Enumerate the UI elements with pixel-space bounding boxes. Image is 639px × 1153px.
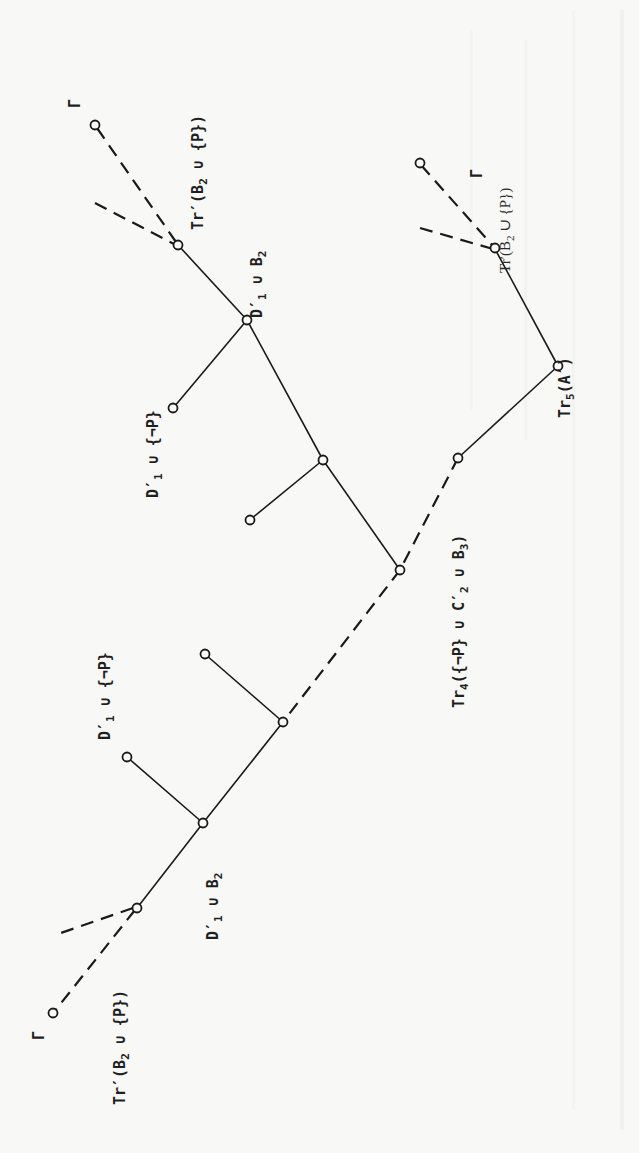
label-top-tr: Tr′(B2 ∪ {P}) <box>189 115 210 230</box>
node <box>279 718 288 727</box>
node-gamma-bottom <box>49 1009 58 1018</box>
upper-branch <box>95 128 400 570</box>
label-bottom-tr: Tr′(B2 ∪ {P}) <box>111 990 132 1105</box>
node <box>319 456 328 465</box>
node-leaf <box>123 753 132 762</box>
dashed-stub <box>55 908 133 935</box>
edge <box>251 460 323 519</box>
right-branch <box>400 165 558 570</box>
bleed-through-text <box>470 10 624 1130</box>
node <box>174 241 183 250</box>
label-gamma-top: Γ <box>66 99 84 108</box>
edge <box>127 757 203 823</box>
dashed-edge <box>283 570 400 722</box>
lower-branch <box>54 570 400 1012</box>
nodes <box>49 121 563 1018</box>
node-leaf <box>246 516 255 525</box>
node-gamma-top <box>91 121 100 130</box>
label-mid-d1-notp: D′1 ∪ {¬P} <box>144 410 165 498</box>
edge <box>323 460 400 570</box>
node <box>199 819 208 828</box>
label-right-tr: Tr′(B2 ∪ {P}) <box>497 188 516 273</box>
node-leaf <box>169 404 178 413</box>
edge <box>178 245 247 320</box>
scanned-page: Γ Tr′(B2 ∪ {P}) D′1 ∪ B2 D′1 ∪ {¬P} Γ Tr… <box>0 0 639 1153</box>
edge <box>247 320 323 460</box>
label-top-d1-b2: D′1 ∪ B2 <box>248 251 269 318</box>
label-right-tr5: Tr5(A′) <box>556 357 577 418</box>
edge <box>174 320 247 407</box>
tree-diagram: Γ Tr′(B2 ∪ {P}) D′1 ∪ B2 D′1 ∪ {¬P} Γ Tr… <box>0 0 639 1153</box>
label-bottom-long: Tr4({¬P} ∪ C′2 ∪ B3) <box>450 535 471 708</box>
node-leaf <box>201 650 210 659</box>
edge <box>203 722 283 823</box>
label-gamma-bottom: Γ <box>30 1031 48 1040</box>
edge <box>137 823 203 908</box>
label-gamma-right: Γ <box>468 169 486 178</box>
edge <box>206 655 283 722</box>
node-junction <box>396 566 405 575</box>
node-gamma-right <box>416 159 425 168</box>
label-low-d1-b2: D′1 ∪ B2 <box>204 873 225 940</box>
dashed-stub <box>420 228 493 249</box>
node <box>454 454 463 463</box>
label-low-d1-notp: D′1 ∪ {¬P} <box>96 652 117 740</box>
node <box>133 904 142 913</box>
